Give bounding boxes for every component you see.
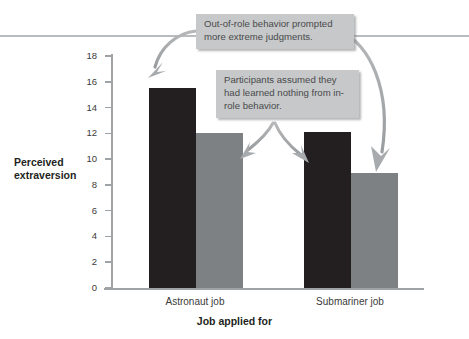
arrow-callout1-to-astronaut-dark [148,31,196,78]
annotation-callout-in-role: Participants assumed they had learned no… [216,70,359,118]
annotation-arrows [0,0,469,339]
arrow-callout2-to-submariner-dark [275,123,309,163]
annotation-callout-out-of-role: Out-of-role behavior prompted more extre… [196,14,354,49]
arrow-callout2-to-astronaut-gray [240,123,273,159]
bar-chart-figure: 024681012141618 Astronaut job Submariner… [0,0,469,339]
